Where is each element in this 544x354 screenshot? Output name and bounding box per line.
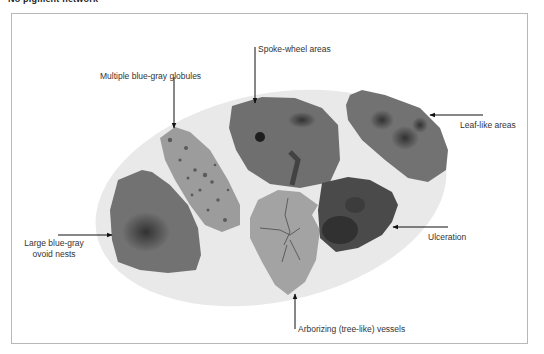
- label-ovoid-nests-line2: ovoid nests: [24, 249, 84, 260]
- label-ulceration: Ulceration: [428, 232, 466, 243]
- label-ovoid-nests: Large blue-gray ovoid nests: [24, 238, 84, 260]
- label-ovoid-nests-line1: Large blue-gray: [24, 238, 84, 249]
- label-globules: Multiple blue-gray globules: [100, 71, 201, 82]
- label-leaf-like: Leaf-like areas: [460, 120, 516, 131]
- label-spoke-wheel: Spoke-wheel areas: [258, 44, 331, 55]
- label-arborizing: Arborizing (tree-like) vessels: [298, 324, 405, 335]
